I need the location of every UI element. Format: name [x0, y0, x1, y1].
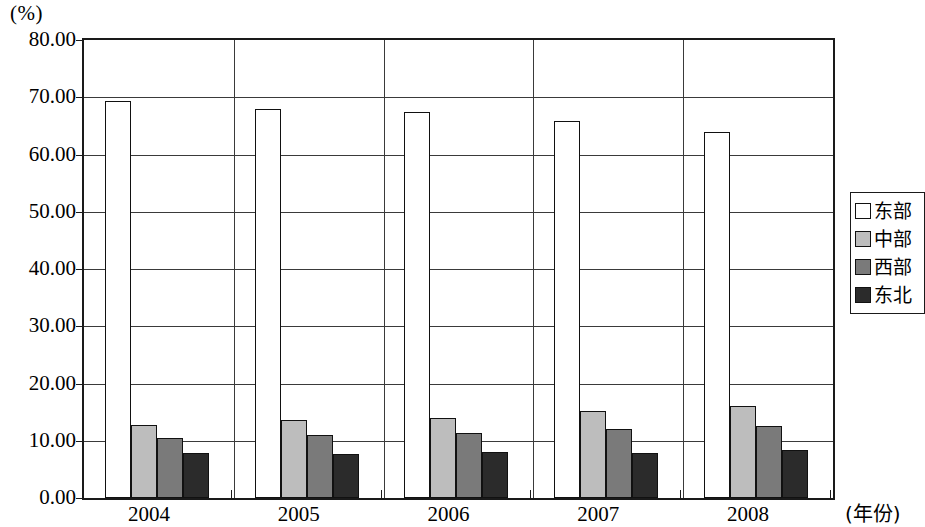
legend-item-label: 东部 — [874, 201, 912, 221]
legend-swatch-icon — [855, 259, 871, 275]
legend-item-label: 中部 — [874, 229, 912, 249]
bar[interactable] — [255, 109, 281, 498]
bar[interactable] — [606, 429, 632, 498]
bar[interactable] — [782, 450, 808, 498]
bar[interactable] — [404, 112, 430, 498]
legend-item[interactable]: 东北 — [855, 281, 919, 309]
x-axis-tick-label: 2005 — [278, 502, 320, 526]
y-axis-unit-label: (%) — [10, 2, 43, 24]
bar[interactable] — [482, 452, 508, 498]
bar-group — [234, 40, 384, 498]
y-axis-tick-label: 10.00 — [0, 430, 76, 451]
bar-group — [384, 40, 534, 498]
legend-item-label: 东北 — [874, 285, 912, 305]
bar-group — [533, 40, 683, 498]
bar[interactable] — [105, 101, 131, 498]
x-axis-tick-mark — [530, 490, 531, 499]
y-axis-tick-label: 30.00 — [0, 315, 76, 336]
legend-swatch-icon — [855, 287, 871, 303]
y-axis-tick-label: 80.00 — [0, 29, 76, 50]
bar[interactable] — [554, 121, 580, 498]
bars-layer — [84, 40, 833, 498]
bar[interactable] — [730, 406, 756, 498]
y-axis-tick-label: 60.00 — [0, 144, 76, 165]
bar[interactable] — [183, 453, 209, 498]
legend-item[interactable]: 中部 — [855, 225, 919, 253]
bar-chart: (%) 0.0010.0020.0030.0040.0050.0060.0070… — [0, 0, 925, 527]
x-axis-tick-label: 2004 — [128, 502, 170, 526]
x-axis-tick-label: 2006 — [428, 502, 470, 526]
y-axis-tick-label: 0.00 — [0, 487, 76, 508]
x-axis-tick-mark — [381, 490, 382, 499]
bar[interactable] — [456, 433, 482, 498]
legend-item-label: 西部 — [874, 257, 912, 277]
legend-swatch-icon — [855, 231, 871, 247]
x-axis-tick-label: 2007 — [577, 502, 619, 526]
bar[interactable] — [307, 435, 333, 498]
bar-group — [683, 40, 833, 498]
x-axis-tick-labels: 20042005200620072008 — [84, 500, 833, 527]
x-axis-tick-mark — [830, 490, 831, 499]
bar[interactable] — [632, 453, 658, 498]
legend-swatch-icon — [855, 203, 871, 219]
bar[interactable] — [430, 418, 456, 498]
x-axis-tick-label: 2008 — [727, 502, 769, 526]
x-axis-tick-mark — [680, 490, 681, 499]
y-axis-tick-labels: 0.0010.0020.0030.0040.0050.0060.0070.008… — [0, 38, 78, 500]
y-axis-tick-label: 50.00 — [0, 201, 76, 222]
x-axis-tick-mark — [231, 490, 232, 499]
legend-item[interactable]: 西部 — [855, 253, 919, 281]
bar[interactable] — [157, 438, 183, 498]
bar[interactable] — [131, 425, 157, 498]
bar[interactable] — [756, 426, 782, 498]
legend-item[interactable]: 东部 — [855, 197, 919, 225]
bar[interactable] — [281, 420, 307, 498]
bar[interactable] — [580, 411, 606, 498]
x-axis-title: (年份) — [845, 502, 901, 526]
bar-group — [84, 40, 234, 498]
legend: 东部中部西部东北 — [850, 192, 925, 314]
y-axis-tick-label: 70.00 — [0, 86, 76, 107]
y-axis-tick-label: 20.00 — [0, 373, 76, 394]
y-axis-tick-label: 40.00 — [0, 258, 76, 279]
bar[interactable] — [333, 454, 359, 498]
bar[interactable] — [704, 132, 730, 498]
